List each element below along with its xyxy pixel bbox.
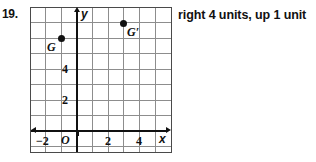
x-axis [31, 130, 167, 132]
y-tick-label-2: 2 [62, 93, 68, 108]
answer-text: right 4 units, up 1 unit [178, 8, 306, 22]
worksheet-problem: 19. 4 2 [0, 0, 316, 162]
origin-label: O [61, 133, 70, 148]
gridline-horizontal [31, 146, 171, 147]
y-tick-label-4: 4 [62, 62, 68, 77]
gridline-horizontal [31, 100, 171, 101]
gridline-horizontal [31, 115, 171, 116]
problem-number: 19. [2, 7, 18, 21]
gridline-horizontal [31, 69, 171, 70]
x-tick-label-2: 2 [105, 134, 111, 149]
point-g-prime-marker[interactable] [120, 20, 127, 27]
x-axis-label: x [159, 132, 166, 146]
point-g-marker[interactable] [58, 35, 65, 42]
y-axis-arrow-icon [74, 7, 80, 12]
point-g-prime-label: G′ [127, 25, 139, 40]
origin-tick [77, 132, 79, 136]
x-axis-arrow-left-icon [31, 127, 36, 133]
y-axis-label: y [81, 7, 88, 21]
gridline-horizontal [31, 38, 171, 39]
x-tick-label-neg2: −2 [36, 134, 49, 149]
x-axis-arrow-right-icon [166, 127, 171, 133]
coordinate-grid: 4 2 −2 2 4 O y x G G′ [30, 7, 172, 153]
x-tick-label-4: 4 [136, 134, 142, 149]
gridline-horizontal [31, 22, 171, 23]
point-g-label: G [47, 40, 56, 55]
gridline-horizontal [31, 84, 171, 85]
